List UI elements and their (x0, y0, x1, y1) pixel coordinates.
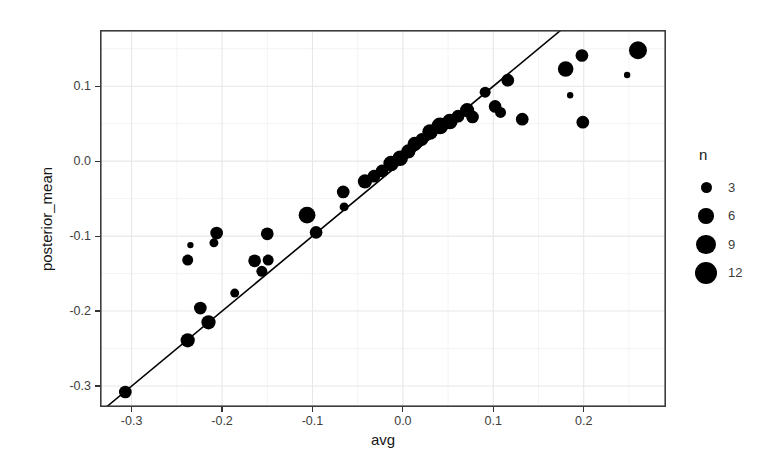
data-point (119, 386, 132, 399)
x-tick-label: -0.1 (290, 414, 334, 429)
legend-item: 3 (690, 173, 770, 202)
data-point (182, 255, 193, 266)
y-tick-mark (95, 236, 100, 237)
data-point (248, 254, 261, 267)
y-axis-title: posterior_mean (38, 167, 55, 271)
legend-item: 12 (690, 259, 770, 288)
x-tick-label: 0.1 (471, 414, 515, 429)
data-point (516, 113, 529, 126)
legend-label: 9 (728, 237, 735, 252)
data-point (263, 255, 274, 266)
x-tick-mark (493, 407, 494, 412)
y-tick-mark (95, 161, 100, 162)
y-tick-label: 0.1 (47, 79, 91, 94)
legend-dot-icon (696, 235, 715, 254)
y-tick-mark (95, 86, 100, 87)
data-point (567, 92, 573, 98)
x-tick-label: 0.0 (381, 414, 425, 429)
x-axis-title: avg (100, 431, 666, 448)
data-point (501, 74, 514, 87)
plot-panel (100, 30, 666, 407)
x-tick-mark (402, 407, 403, 412)
y-tick-mark (95, 310, 100, 311)
data-point (256, 266, 267, 277)
panel-border (101, 31, 665, 406)
x-tick-label: 0.2 (562, 414, 606, 429)
data-point (209, 238, 218, 247)
x-tick-label: -0.3 (110, 414, 154, 429)
x-tick-label: -0.2 (200, 414, 244, 429)
scatter-plot-figure: -0.3-0.2-0.10.00.10.2 0.10.0-0.1-0.2-0.3… (0, 0, 780, 471)
data-point (629, 41, 647, 59)
data-point (210, 227, 223, 240)
data-point (261, 228, 274, 241)
legend-dot-icon (695, 262, 717, 284)
x-tick-mark (312, 407, 313, 412)
legend-item: 6 (690, 202, 770, 231)
x-tick-mark (131, 407, 132, 412)
legend-item: 9 (690, 230, 770, 259)
data-point (576, 49, 589, 62)
data-point (624, 72, 630, 78)
legend-title: n (699, 146, 770, 163)
y-tick-label: -0.2 (47, 304, 91, 319)
x-tick-mark (221, 407, 222, 412)
data-point (340, 202, 349, 211)
size-legend: n 3 6 9 12 (690, 146, 770, 287)
data-point (194, 302, 207, 315)
x-tick-mark (583, 407, 584, 412)
legend-label: 12 (728, 265, 742, 280)
data-point (466, 111, 479, 124)
legend-label: 3 (728, 180, 735, 195)
y-tick-mark (95, 385, 100, 386)
data-point (337, 186, 350, 199)
data-point (187, 242, 193, 248)
data-point (310, 226, 323, 239)
data-point (480, 87, 491, 98)
legend-dot-icon (701, 182, 712, 193)
data-point (181, 333, 195, 347)
data-point (576, 116, 589, 129)
plot-canvas (100, 30, 666, 407)
data-point (495, 107, 506, 118)
y-tick-label: -0.3 (47, 379, 91, 394)
data-point (230, 289, 239, 298)
data-point (299, 207, 316, 224)
legend-dot-icon (698, 208, 714, 224)
data-point (201, 315, 215, 329)
legend-label: 6 (728, 208, 735, 223)
data-point (558, 61, 574, 77)
